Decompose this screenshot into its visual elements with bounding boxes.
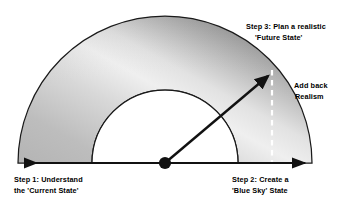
label-step1-current-state: Step 1: Understand the 'Current State' xyxy=(14,175,83,196)
diagram-canvas: Step 3: Plan a realistic 'Future State' … xyxy=(0,0,346,205)
label-addback-line1: Add back xyxy=(294,81,328,92)
label-step3-line1: Step 3: Plan a realistic xyxy=(246,22,326,33)
label-step2-line2: 'Blue Sky' State xyxy=(232,186,289,197)
label-step1-line2: the 'Current State' xyxy=(14,186,83,197)
label-step1-line1: Step 1: Understand xyxy=(14,175,83,186)
label-step2-line1: Step 2: Create a xyxy=(232,175,289,186)
label-step2-blue-sky-state: Step 2: Create a 'Blue Sky' State xyxy=(232,175,289,196)
label-add-back-realism: Add back Realism xyxy=(294,81,328,102)
center-pivot-dot xyxy=(159,157,171,169)
label-addback-line2: Realism xyxy=(294,92,328,103)
label-step3-future-state: Step 3: Plan a realistic 'Future State' xyxy=(246,22,326,43)
label-step3-line2: 'Future State' xyxy=(246,33,326,44)
